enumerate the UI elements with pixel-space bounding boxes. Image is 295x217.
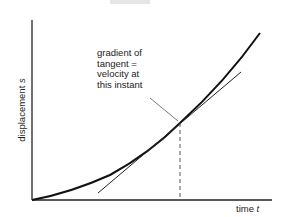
tangent-line bbox=[98, 72, 241, 193]
displacement-time-graph bbox=[0, 0, 295, 217]
annotation-pointer bbox=[150, 98, 178, 121]
annotation-line-3: velocity at bbox=[97, 69, 177, 80]
x-axis-symbol: t bbox=[257, 203, 260, 214]
x-axis-label-text: time bbox=[236, 203, 254, 214]
y-axis-label: displacement s bbox=[17, 78, 28, 141]
annotation-line-1: gradient of bbox=[97, 48, 177, 59]
tangent-annotation: gradient of tangent = velocity at this i… bbox=[97, 48, 177, 90]
x-axis-label: time t bbox=[236, 204, 259, 215]
annotation-line-4: this instant bbox=[97, 80, 177, 91]
y-axis-label-text: displacement bbox=[16, 86, 27, 142]
y-axis-symbol: s bbox=[16, 78, 27, 83]
